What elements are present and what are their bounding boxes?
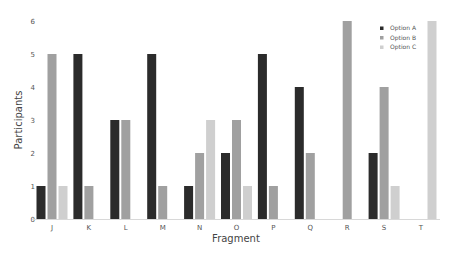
bar-O-option-c [243, 186, 252, 219]
x-tick-label: T [418, 224, 424, 232]
bar-N-option-c [206, 120, 215, 219]
y-axis-label: Participants [13, 91, 24, 150]
legend-swatch-icon [380, 36, 384, 40]
x-tick-label: N [197, 224, 202, 232]
bar-S-option-c [391, 186, 400, 219]
x-tick-label: S [382, 224, 387, 232]
y-tick-label: 6 [31, 18, 36, 26]
bar-Q-option-b [306, 153, 315, 219]
bar-K-option-b [84, 186, 93, 219]
legend-swatch-icon [380, 27, 384, 31]
legend-swatch-icon [380, 46, 384, 50]
y-tick-label: 3 [31, 117, 35, 125]
x-tick-label: L [124, 224, 128, 232]
bar-P-option-a [258, 54, 267, 219]
x-axis-ticks: JKLMNOPQRST [50, 224, 424, 232]
bar-L-option-b [121, 120, 130, 219]
y-axis-ticks: 0123456 [31, 18, 36, 224]
bar-N-option-a [184, 186, 193, 219]
y-tick-label: 5 [31, 51, 35, 59]
bar-S-option-a [369, 153, 378, 219]
x-tick-label: K [87, 224, 92, 232]
bar-K-option-a [73, 54, 82, 219]
bar-chart: 0123456 JKLMNOPQRST Fragment Participant… [0, 0, 455, 255]
bar-J-option-a [37, 186, 46, 219]
legend: Option AOption BOption C [380, 24, 417, 51]
bar-J-option-b [48, 54, 57, 219]
bar-Q-option-a [295, 87, 304, 219]
y-tick-label: 2 [31, 150, 35, 158]
x-tick-label: R [345, 224, 350, 232]
x-tick-label: M [160, 224, 166, 232]
bar-L-option-a [110, 120, 119, 219]
x-tick-label: O [234, 224, 240, 232]
bars-group [37, 21, 437, 219]
bar-S-option-b [380, 87, 389, 219]
bar-M-option-b [158, 186, 167, 219]
bar-N-option-b [195, 153, 204, 219]
legend-label: Option B [390, 34, 416, 42]
bar-P-option-b [269, 186, 278, 219]
bar-M-option-a [147, 54, 156, 219]
bar-O-option-a [221, 153, 230, 219]
bar-J-option-c [59, 186, 68, 219]
x-tick-label: J [50, 224, 53, 232]
x-axis-label: Fragment [212, 233, 260, 244]
legend-label: Option C [390, 43, 416, 51]
legend-label: Option A [390, 24, 417, 32]
x-tick-label: P [271, 224, 275, 232]
y-tick-label: 1 [31, 183, 35, 191]
bar-R-option-b [343, 21, 352, 219]
x-tick-label: Q [308, 224, 314, 232]
bar-O-option-b [232, 120, 241, 219]
bar-T-option-c [428, 21, 437, 219]
y-tick-label: 4 [31, 84, 36, 92]
